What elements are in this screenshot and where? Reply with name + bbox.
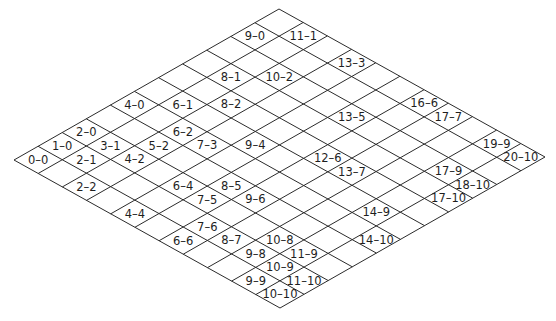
cell-label: 13–7 xyxy=(338,165,366,179)
cell-label: 14–9 xyxy=(362,205,390,219)
grid-line-u11 xyxy=(279,9,545,157)
cell-label: 10–8 xyxy=(266,233,294,247)
grid-line-v3 xyxy=(87,49,352,200)
cell-label: 2–0 xyxy=(76,125,96,139)
grid-line-u1 xyxy=(38,146,304,294)
cell-label: 6–1 xyxy=(173,98,193,112)
cell-label: 10–2 xyxy=(265,70,293,84)
cell-label: 17–9 xyxy=(435,164,463,178)
cell-label: 12–6 xyxy=(314,151,342,165)
cell-label: 4–2 xyxy=(124,152,144,166)
cell-label: 10–9 xyxy=(266,260,294,274)
cell-label: 20–10 xyxy=(503,150,538,164)
cell-label: 7–5 xyxy=(197,193,217,207)
cell-label: 8–7 xyxy=(221,233,241,247)
cell-label: 1–0 xyxy=(52,139,72,153)
grid-line-u10 xyxy=(255,23,521,171)
cell-label: 9–9 xyxy=(246,274,266,288)
grid-line-v0 xyxy=(14,9,279,160)
cell-label: 2–1 xyxy=(76,153,96,167)
cell-label: 8–5 xyxy=(221,179,241,193)
cell-label: 2–2 xyxy=(76,180,96,194)
cell-label: 3–1 xyxy=(100,139,120,153)
cell-label: 11–9 xyxy=(290,247,318,261)
cell-label: 11–1 xyxy=(289,29,317,43)
cell-labels: 0–01–02–04–09–02–13–16–18–111–12–24–25–2… xyxy=(28,29,538,301)
cell-label: 4–4 xyxy=(125,207,145,221)
cell-label: 7–3 xyxy=(197,138,217,152)
cell-label: 8–2 xyxy=(221,97,241,111)
grid-line-u4 xyxy=(110,105,376,253)
cell-label: 10–10 xyxy=(262,287,297,301)
cell-label: 8–1 xyxy=(221,70,241,84)
cell-label: 9–6 xyxy=(245,192,265,206)
cell-label: 14–10 xyxy=(359,233,394,247)
cell-label: 11–10 xyxy=(287,274,322,288)
cell-label: 9–0 xyxy=(245,29,265,43)
cell-label: 13–3 xyxy=(338,56,366,70)
grid-line-u2 xyxy=(62,133,328,281)
cell-label: 7–6 xyxy=(197,220,217,234)
cell-label: 4–0 xyxy=(124,98,144,112)
grid-line-v2 xyxy=(62,36,327,187)
cell-label: 0–0 xyxy=(28,153,48,167)
cell-label: 6–2 xyxy=(173,125,193,139)
cell-label: 6–4 xyxy=(173,179,193,193)
cell-label: 19–9 xyxy=(483,137,511,151)
cell-label: 16–6 xyxy=(410,96,438,110)
cell-label: 5–2 xyxy=(149,139,169,153)
grid-line-u3 xyxy=(86,119,352,267)
cell-label: 17–7 xyxy=(434,110,462,124)
cell-label: 13–5 xyxy=(338,110,366,124)
cell-label: 6–6 xyxy=(173,234,193,248)
cell-label: 9–4 xyxy=(245,138,265,152)
diagram-canvas: 0–01–02–04–09–02–13–16–18–111–12–24–25–2… xyxy=(0,0,556,321)
cell-label: 17–10 xyxy=(431,191,466,205)
isometric-grid: 0–01–02–04–09–02–13–16–18–111–12–24–25–2… xyxy=(0,0,556,321)
cell-label: 9–8 xyxy=(245,247,265,261)
cell-label: 18–10 xyxy=(455,178,490,192)
